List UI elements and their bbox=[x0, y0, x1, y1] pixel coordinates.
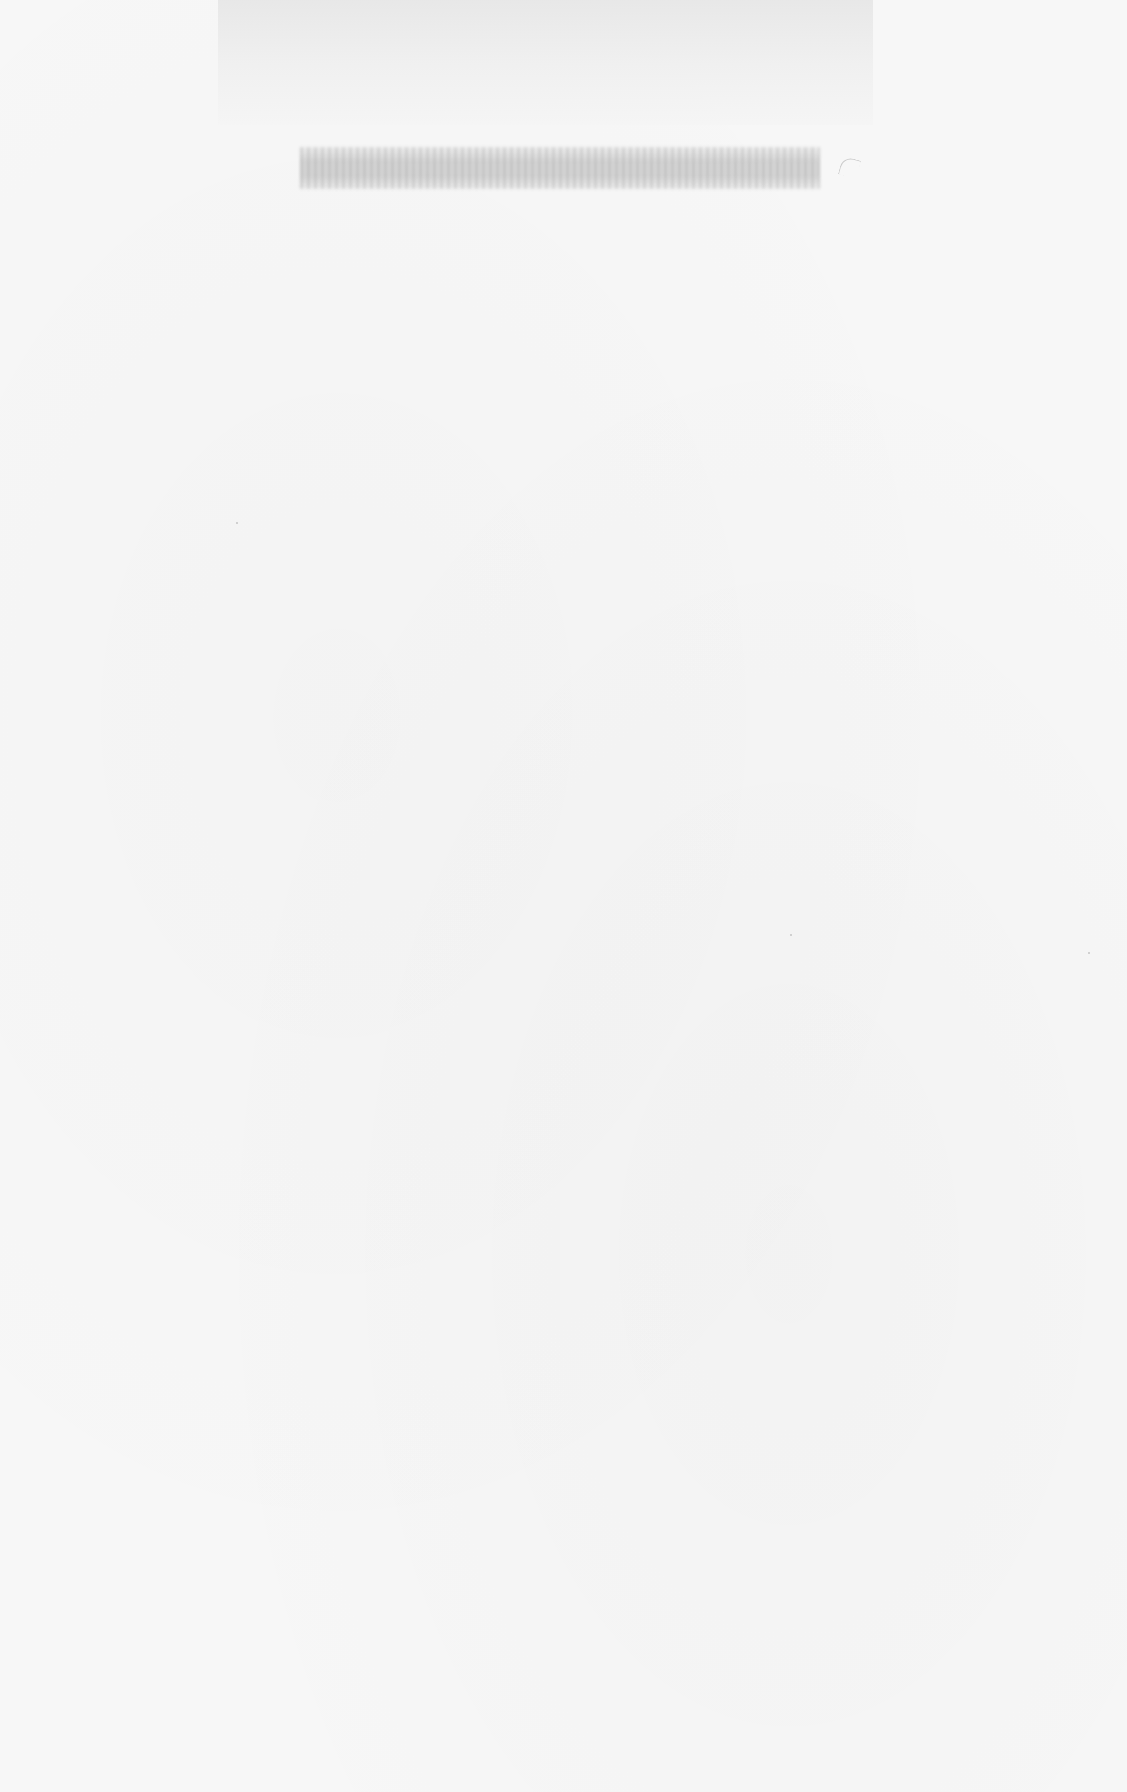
paper-speck bbox=[236, 522, 238, 524]
header-shadow-band bbox=[218, 0, 873, 125]
scanned-page bbox=[0, 0, 1127, 1792]
paper-speck bbox=[790, 934, 792, 936]
illegible-text-line bbox=[300, 147, 820, 189]
pencil-mark bbox=[838, 156, 861, 179]
paper-speck bbox=[1088, 952, 1090, 954]
